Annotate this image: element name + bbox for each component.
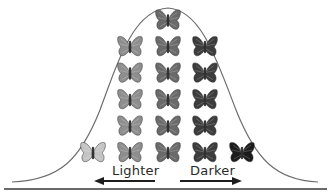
butterfly-icon [193,89,218,108]
lighter-label: Lighter [112,163,159,178]
butterfly-icon [193,142,218,161]
butterfly-icon [193,63,218,82]
darker-label: Darker [190,163,235,178]
butterfly-icon [118,116,143,135]
butterfly-icon [156,89,181,108]
butterfly-group [81,10,255,162]
butterfly-icon [156,63,181,82]
butterfly-icon [193,116,218,135]
butterfly-icon [118,63,143,82]
butterfly-icon [230,142,255,161]
butterfly-icon [81,142,106,161]
butterfly-icon [156,10,181,29]
butterfly-icon [156,142,181,161]
bell-curve-diagram: Lighter Darker [0,0,331,195]
darker-arrow [180,177,242,185]
butterfly-icon [156,116,181,135]
baseline-divider [4,188,327,190]
lighter-arrow [94,177,155,185]
butterfly-icon [118,36,143,55]
diagram-canvas [0,0,331,195]
butterfly-icon [193,36,218,55]
butterfly-icon [156,36,181,55]
butterfly-icon [118,142,143,161]
butterfly-icon [118,89,143,108]
